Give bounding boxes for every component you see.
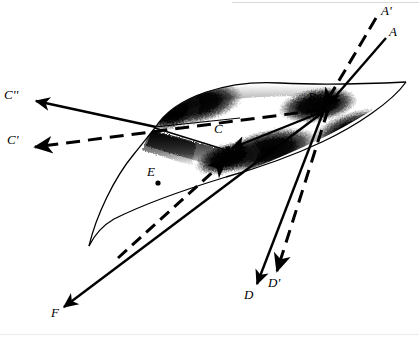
incident-ray-A <box>327 38 386 106</box>
label-d-prime: D' <box>268 276 280 289</box>
point-B <box>321 106 326 111</box>
saddle-surface-ray-diagram <box>0 0 419 337</box>
label-a-prime: A' <box>381 4 392 17</box>
label-a: A <box>389 25 397 38</box>
point-E <box>155 180 160 185</box>
label-e: E <box>147 165 155 178</box>
label-c-double-prime: C'' <box>4 88 18 101</box>
shade-hatching-left-fold <box>142 130 232 170</box>
point-C <box>225 146 230 151</box>
label-d: D <box>244 288 253 301</box>
label-b: B <box>308 90 316 103</box>
reflected-ray-C-double-prime <box>36 101 156 127</box>
saddle-surface <box>89 74 411 246</box>
label-c: C <box>214 122 223 135</box>
label-c-prime: C' <box>7 133 18 146</box>
shade-blob-right-tip <box>349 117 411 162</box>
label-f: F <box>51 306 59 319</box>
